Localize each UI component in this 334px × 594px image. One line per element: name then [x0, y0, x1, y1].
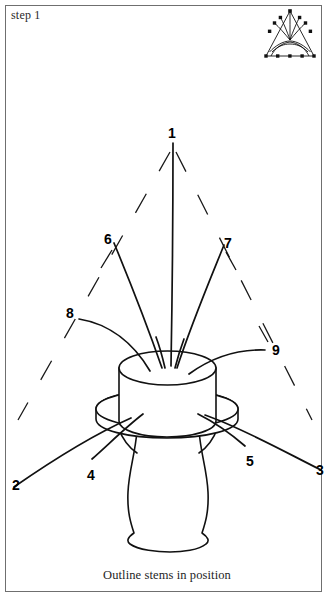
stem-label-8: 8	[66, 306, 74, 320]
stem-label-1: 1	[168, 126, 176, 140]
page-canvas: step 1	[0, 0, 334, 594]
stem-label-5: 5	[246, 454, 254, 468]
stem-label-7: 7	[224, 236, 232, 250]
stem-label-4: 4	[87, 468, 95, 482]
stem-label-2: 2	[12, 478, 20, 492]
stem-label-9: 9	[272, 343, 280, 357]
step-label: step 1	[11, 8, 41, 22]
stem-label-6: 6	[104, 232, 112, 246]
triangle-arrangement-icon	[261, 7, 319, 65]
page-frame	[5, 5, 322, 592]
figure-caption: Outline stems in position	[0, 568, 334, 583]
stem-label-3: 3	[316, 463, 324, 477]
